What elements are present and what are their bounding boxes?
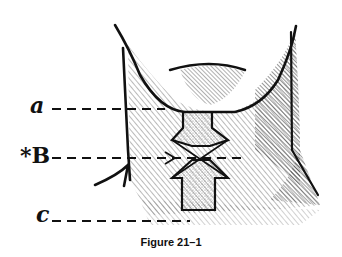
label-b: *B — [20, 144, 50, 166]
label-a: a — [30, 94, 44, 116]
label-c: c — [36, 203, 49, 225]
neck-anatomy-illustration — [0, 0, 342, 257]
figure-caption: Figure 21–1 — [0, 236, 342, 248]
